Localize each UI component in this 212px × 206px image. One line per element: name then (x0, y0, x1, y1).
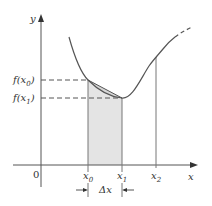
f-x0-label: f(x0) (13, 75, 35, 88)
function-curve (69, 37, 175, 98)
delta-x-left-arrowhead-icon (83, 188, 88, 192)
y-axis-arrow-icon (38, 14, 44, 22)
x-axis-arrow-icon (190, 162, 198, 168)
x1-label: x1 (117, 171, 127, 184)
origin-label: 0 (33, 170, 39, 180)
f-x1-label: f(x1) (13, 93, 35, 106)
x0-label: x0 (83, 171, 93, 184)
delta-x-right-arrowhead-icon (122, 188, 127, 192)
x2-label: x2 (151, 171, 161, 184)
delta-x-label: Δx (99, 185, 112, 195)
function-curve-dashed (175, 27, 192, 37)
y-axis-label: y (30, 14, 36, 24)
x-axis-label: x (188, 172, 194, 182)
secant-diagram: y x 0 f(x0) f(x1) x0 x1 x2 Δx (0, 0, 212, 206)
